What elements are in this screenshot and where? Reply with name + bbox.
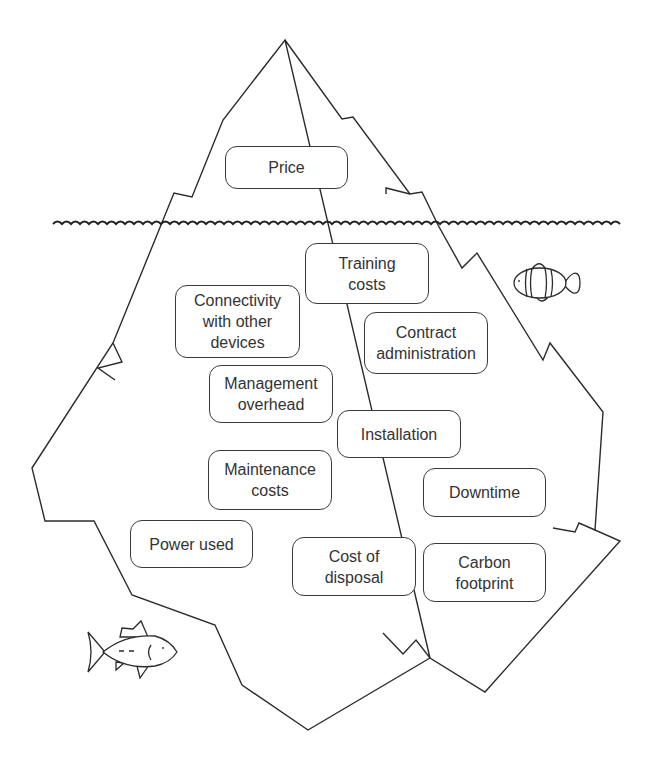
downtime-box: Downtime bbox=[423, 468, 546, 517]
training-costs-box: Training costs bbox=[305, 243, 429, 304]
price-box: Price bbox=[225, 146, 348, 189]
carbon-footprint-box: Carbon footprint bbox=[423, 543, 546, 602]
maintenance-costs-box: Maintenance costs bbox=[208, 450, 332, 510]
clownfish-icon bbox=[514, 264, 580, 301]
contract-administration-box: Contract administration bbox=[364, 312, 488, 374]
connectivity-box: Connectivity with other devices bbox=[175, 285, 300, 358]
management-overhead-box: Management overhead bbox=[209, 365, 333, 423]
tuna-fish-icon bbox=[88, 621, 177, 678]
iceberg-diagram: Price Training costs Connectivity with o… bbox=[0, 0, 655, 767]
wavy-waterline bbox=[53, 222, 620, 225]
power-used-box: Power used bbox=[130, 520, 253, 568]
installation-box: Installation bbox=[337, 410, 461, 458]
cost-of-disposal-box: Cost of disposal bbox=[292, 537, 416, 596]
